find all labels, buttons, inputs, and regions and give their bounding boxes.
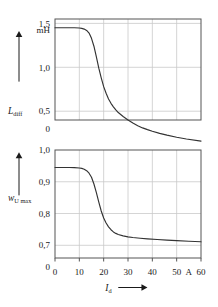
y-axis-arrow-head (16, 152, 23, 158)
panel-differential-inductance: 00,51,01,5LdiffmH (7, 19, 201, 141)
y-tick-label: 0,7 (39, 240, 51, 250)
x-axis-arrow-head (141, 284, 147, 291)
panel-voltage-utilisation-maximum: 00,70,80,91,0wU max (8, 145, 201, 272)
y-tick-label: 0,8 (39, 209, 51, 219)
y-axis-quantity-label: wU max (8, 193, 32, 204)
x-tick-label: 20 (99, 267, 109, 277)
y-tick-label: 1,0 (39, 145, 51, 155)
y-tick-label: 0 (46, 262, 51, 272)
x-axis-quantity-label: Id (104, 283, 112, 294)
x-tick-label: 0 (53, 267, 58, 277)
x-tick-label: 10 (75, 267, 85, 277)
x-tick-label: 30 (124, 267, 134, 277)
x-axis-group: 0102030405060AId (53, 267, 206, 294)
y-axis-unit-label: mH (37, 25, 51, 35)
x-axis-unit-label: A (186, 267, 193, 277)
figure-container: 00,51,01,5LdiffmH00,70,80,91,0wU max0102… (0, 0, 218, 307)
x-tick-label: 60 (197, 267, 207, 277)
y-tick-label: 0 (46, 124, 51, 134)
chart-svg: 00,51,01,5LdiffmH00,70,80,91,0wU max0102… (0, 0, 218, 307)
y-tick-label: 1,0 (39, 63, 51, 73)
y-axis-quantity-label: Ldiff (7, 106, 23, 117)
y-tick-label: 0,5 (39, 106, 51, 116)
x-tick-label: 50 (172, 267, 182, 277)
x-tick-label: 40 (148, 267, 158, 277)
y-tick-label: 0,9 (39, 177, 51, 187)
y-axis-arrow-head (16, 31, 23, 37)
